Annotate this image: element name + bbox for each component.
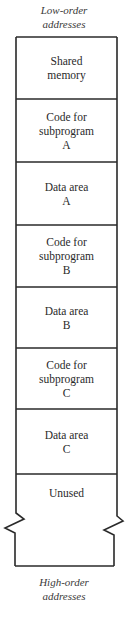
segment-shared-memory: Shared memory	[16, 37, 117, 99]
segment-label: Shared memory	[47, 54, 85, 82]
segment-unused: Unused	[16, 478, 117, 508]
segment-code-c: Code for subprogram C	[16, 348, 117, 409]
segment-data-c: Data area C	[16, 409, 117, 474]
segment-data-a: Data area A	[16, 162, 117, 225]
segment-code-a: Code for subprogram A	[16, 99, 117, 162]
segment-label: Data area C	[45, 428, 89, 456]
segment-code-b: Code for subprogram B	[16, 225, 117, 287]
segment-label: Code for subprogram B	[39, 235, 94, 277]
segment-data-b: Data area B	[16, 287, 117, 348]
segment-label: Code for subprogram C	[39, 358, 94, 400]
segment-label: Data area A	[45, 180, 89, 208]
segment-label: Code for subprogram A	[39, 110, 94, 152]
high-order-addresses-label: High-order addresses	[0, 575, 128, 603]
segment-label: Unused	[49, 486, 84, 500]
segment-label: Data area B	[45, 304, 89, 332]
